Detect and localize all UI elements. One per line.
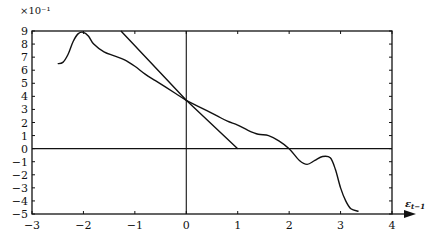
- tick-labels: −3−2−1012349876543210−1−2−3−4−5: [12, 25, 396, 232]
- y-tick-label: −2: [12, 169, 28, 182]
- reference-lines: [32, 31, 392, 214]
- y-tick-label: −3: [12, 182, 28, 195]
- y-tick-label: 9: [21, 25, 28, 38]
- x-tick-label: 4: [389, 219, 396, 232]
- series: [58, 31, 359, 211]
- x-axis-arrow: [392, 210, 416, 218]
- y-tick-label: 3: [21, 103, 28, 116]
- straight-line-series: [121, 31, 238, 149]
- axes-box: [32, 31, 392, 214]
- x-tick-label: 3: [337, 219, 344, 232]
- y-tick-label: −1: [12, 156, 28, 169]
- y-tick-label: 7: [21, 51, 28, 64]
- x-tick-label: −2: [75, 219, 91, 232]
- y-tick-label: 4: [21, 90, 28, 103]
- x-tick-label: 1: [234, 219, 241, 232]
- y-multiplier-label: ×10⁻¹: [20, 5, 50, 16]
- y-tick-label: 0: [21, 143, 28, 156]
- ticks: [32, 31, 392, 214]
- y-tick-label: 2: [21, 117, 28, 130]
- x-tick-label: −1: [127, 219, 143, 232]
- x-tick-label: 0: [183, 219, 190, 232]
- y-tick-label: 8: [21, 38, 28, 51]
- chart: −3−2−1012349876543210−1−2−3−4−5 ×10⁻¹ εt…: [0, 0, 439, 243]
- y-tick-label: 1: [21, 130, 28, 143]
- y-tick-label: −5: [12, 208, 28, 221]
- y-tick-label: −4: [12, 195, 28, 208]
- plot-frame: [32, 31, 392, 214]
- y-tick-label: 6: [21, 64, 28, 77]
- x-axis-title: εt−1: [405, 198, 425, 211]
- x-tick-label: 2: [286, 219, 293, 232]
- y-tick-label: 5: [21, 77, 28, 90]
